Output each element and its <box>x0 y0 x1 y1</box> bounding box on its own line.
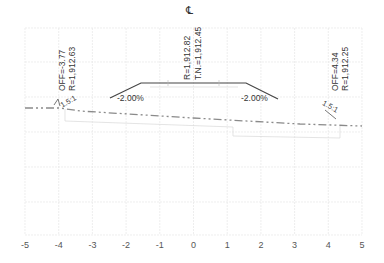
subgrade-outline <box>65 87 340 138</box>
center-tn-label: T.N.=1,912.45 <box>193 27 203 80</box>
slope-markers <box>54 99 336 119</box>
center-r-label: R=1,912.82 <box>182 36 192 80</box>
x-tick: -3 <box>88 240 96 250</box>
x-tick: 1 <box>225 240 230 250</box>
x-tick: -4 <box>55 240 63 250</box>
x-tick: 3 <box>292 240 297 250</box>
x-tick: -2 <box>122 240 130 250</box>
x-tick: 0 <box>191 240 196 250</box>
left-offset-label: OFF=-3.77 <box>57 50 67 91</box>
x-tick: 4 <box>326 240 331 250</box>
centerline-symbol: ℄ <box>186 4 193 17</box>
cross-section-plot <box>0 0 384 263</box>
x-tick: 2 <box>258 240 263 250</box>
right-cross-slope: -2.00% <box>241 93 268 103</box>
left-r-label: R=1,912.63 <box>67 47 77 91</box>
x-tick: -5 <box>21 240 29 250</box>
left-cross-slope: -2.00% <box>117 93 144 103</box>
x-tick: 5 <box>359 240 364 250</box>
right-r-label: R=1,912.25 <box>340 47 350 91</box>
right-offset-label: OFF=4.34 <box>330 52 340 91</box>
x-tick: -1 <box>156 240 164 250</box>
